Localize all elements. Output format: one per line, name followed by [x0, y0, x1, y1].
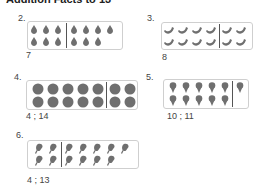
popsicle-row-top: [28, 142, 138, 154]
ice-cream-cone-icon: [192, 94, 205, 107]
pear-icon: [40, 35, 52, 47]
pear-row-bottom: [28, 35, 122, 47]
ball-row-bottom: [27, 95, 137, 108]
ten-frame-balls: [26, 80, 138, 110]
ball-row-top: [27, 82, 137, 95]
banana-icon: [190, 36, 204, 48]
problem-number: 2.: [18, 13, 26, 23]
ball-icon: [107, 82, 122, 95]
popsicle-icon: [76, 142, 90, 154]
pear-icon: [80, 23, 92, 35]
pear-icon: [28, 23, 40, 35]
frame-divider: [66, 23, 67, 48]
ball-icon: [46, 95, 61, 108]
banana-icon: [204, 36, 218, 48]
banana-icon: [234, 36, 248, 48]
pear-row-top: [28, 23, 122, 35]
ten-frame-pears: [27, 21, 123, 50]
popsicle-icon: [104, 154, 118, 166]
ball-icon: [61, 82, 76, 95]
ball-icon: [107, 95, 122, 108]
popsicle-icon: [118, 142, 132, 154]
pear-icon: [68, 23, 80, 35]
ball-icon: [61, 95, 76, 108]
popsicle-icon: [90, 142, 104, 154]
problem-number: 6.: [16, 130, 24, 140]
pear-icon: [28, 35, 40, 47]
ice-cream-cone-icon: [166, 94, 179, 107]
banana-icon: [162, 36, 176, 48]
ball-icon: [76, 82, 91, 95]
ice-cream-row-top: [164, 81, 248, 94]
ball-icon: [31, 82, 46, 95]
ice-cream-cone-icon: [218, 94, 231, 107]
ice-cream-cone-icon: [192, 81, 205, 94]
problem-number: 4.: [14, 72, 22, 82]
ice-cream-cone-icon: [179, 81, 192, 94]
popsicle-icon: [46, 142, 60, 154]
ten-frame-popsicles: [27, 140, 139, 169]
ten-frame-bananas: [161, 22, 253, 50]
ice-cream-cone-icon: [166, 81, 179, 94]
popsicle-icon: [62, 154, 76, 166]
ball-icon: [90, 95, 105, 108]
ice-cream-cone-icon: [218, 81, 231, 94]
banana-icon: [220, 36, 234, 48]
ice-cream-cone-icon: [233, 81, 246, 94]
ice-cream-cone-icon: [205, 81, 218, 94]
ice-cream-cone-icon: [179, 94, 192, 107]
banana-icon: [162, 24, 176, 36]
popsicle-icon: [32, 142, 46, 154]
ball-icon: [31, 95, 46, 108]
banana-icon: [176, 36, 190, 48]
popsicle-icon: [32, 154, 46, 166]
banana-row-bottom: [162, 36, 252, 48]
ice-cream-row-bottom: [164, 94, 248, 107]
pear-icon: [40, 23, 52, 35]
popsicle-row-bottom: [28, 154, 138, 166]
answer-text: 4 ; 14: [26, 111, 49, 121]
answer-text: 4 ; 13: [27, 175, 50, 185]
banana-icon: [176, 24, 190, 36]
popsicle-icon: [46, 154, 60, 166]
pear-icon: [52, 23, 64, 35]
page-title: Addition Facts to 13: [6, 0, 111, 5]
problem-number: 5.: [146, 72, 154, 82]
frame-divider: [61, 142, 62, 167]
frame-divider: [232, 81, 233, 107]
banana-row-top: [162, 24, 252, 36]
ice-cream-cone-icon: [205, 94, 218, 107]
answer-text: 10 ; 11: [167, 111, 194, 121]
banana-icon: [234, 24, 248, 36]
popsicle-icon: [90, 154, 104, 166]
answer-text: 8: [162, 52, 167, 62]
popsicle-icon: [62, 142, 76, 154]
pear-icon: [68, 35, 80, 47]
ball-icon: [76, 95, 91, 108]
ball-icon: [122, 95, 137, 108]
banana-icon: [220, 24, 234, 36]
frame-divider: [219, 24, 220, 48]
pear-icon: [52, 35, 64, 47]
pear-icon: [80, 35, 92, 47]
pear-icon: [92, 35, 104, 47]
ball-icon: [46, 82, 61, 95]
frame-divider: [106, 82, 107, 108]
ball-icon: [122, 82, 137, 95]
pear-icon: [92, 23, 104, 35]
problem-number: 3.: [147, 13, 155, 23]
answer-text: 7: [26, 50, 31, 60]
popsicle-icon: [76, 154, 90, 166]
pear-icon: [104, 23, 116, 35]
ball-icon: [90, 82, 105, 95]
banana-icon: [204, 24, 218, 36]
popsicle-icon: [104, 142, 118, 154]
ten-frame-ice-cream: [163, 79, 249, 109]
banana-icon: [190, 24, 204, 36]
